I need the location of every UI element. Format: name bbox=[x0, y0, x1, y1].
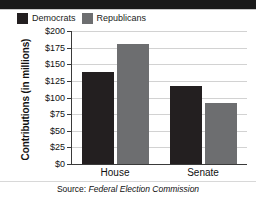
chart-legend: Democrats Republicans bbox=[17, 13, 146, 24]
y-axis-tick-label: $0 bbox=[31, 159, 65, 169]
legend-label-republicans: Republicans bbox=[97, 13, 147, 24]
bar-group-house bbox=[82, 31, 149, 164]
bar-senate-republicans bbox=[205, 103, 237, 164]
y-axis-tick-label: $100 bbox=[31, 93, 65, 103]
bar-senate-democrats bbox=[170, 86, 202, 164]
x-axis-label-senate: Senate bbox=[187, 167, 219, 178]
legend-label-democrats: Democrats bbox=[32, 13, 76, 24]
y-axis-tick-label: $25 bbox=[31, 142, 65, 152]
source-prefix: Source: bbox=[57, 184, 89, 194]
header-band bbox=[0, 0, 256, 9]
source-organization: Federal Election Commission bbox=[89, 184, 200, 194]
x-axis-label-house: House bbox=[101, 167, 130, 178]
chart-figure: Democrats Republicans Contributions (in … bbox=[0, 0, 256, 200]
bar-series-container bbox=[71, 31, 247, 164]
legend-swatch-democrats bbox=[17, 13, 28, 24]
bar-house-republicans bbox=[117, 44, 149, 164]
caption-divider bbox=[0, 181, 256, 182]
y-axis-tick-label: $125 bbox=[31, 76, 65, 86]
bar-group-senate bbox=[170, 31, 237, 164]
bar-house-democrats bbox=[82, 72, 114, 164]
header-band-edge bbox=[0, 9, 256, 10]
y-axis-tick-label: $150 bbox=[31, 59, 65, 69]
y-axis-tick-label: $175 bbox=[31, 43, 65, 53]
y-axis-title: Contributions (in millions) bbox=[20, 32, 31, 168]
plot-area: $0$25$50$75$100$125$150$175$200 HouseSen… bbox=[71, 31, 247, 165]
legend-swatch-republicans bbox=[82, 13, 93, 24]
x-axis-line bbox=[71, 164, 247, 165]
source-caption: Source: Federal Election Commission bbox=[0, 184, 256, 194]
legend-item-republicans: Republicans bbox=[82, 13, 147, 24]
legend-item-democrats: Democrats bbox=[17, 13, 76, 24]
y-axis-tick-label: $75 bbox=[31, 109, 65, 119]
y-axis-tick-label: $200 bbox=[31, 26, 65, 36]
y-axis-tick-label: $50 bbox=[31, 126, 65, 136]
